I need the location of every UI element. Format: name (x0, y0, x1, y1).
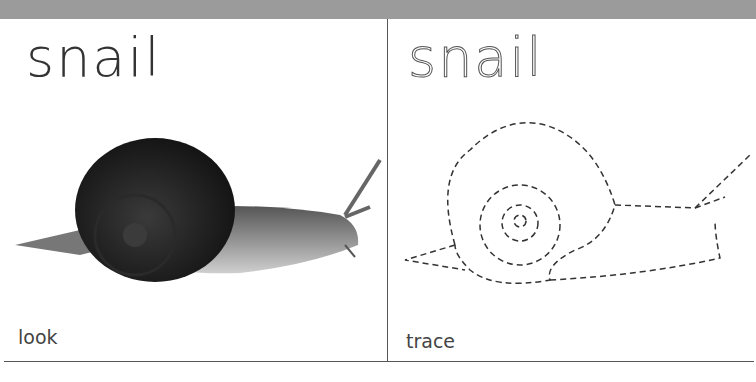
word-title: snail (26, 26, 161, 90)
panel-divider (387, 19, 388, 362)
trace-word-title: snail (408, 26, 543, 90)
trace-caption: trace (406, 330, 455, 352)
snail-trace-outline[interactable] (395, 115, 756, 295)
bottom-rule (4, 361, 754, 362)
look-caption: look (18, 326, 58, 348)
snail-photo (10, 135, 390, 285)
top-bar (0, 0, 756, 19)
